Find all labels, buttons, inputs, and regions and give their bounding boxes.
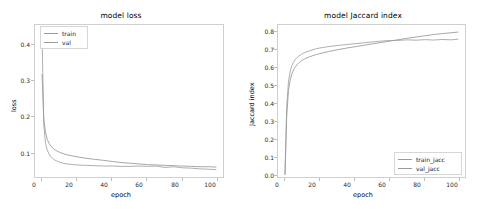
ytickmark-jacc-5 bbox=[274, 85, 277, 86]
legend-line-icon bbox=[44, 42, 58, 43]
ytickmark-loss-1 bbox=[31, 116, 34, 117]
legend-label-train-jacc: train_jacc bbox=[416, 156, 445, 163]
legend-label-val: val bbox=[62, 39, 71, 46]
xtick-jacc-4: 80 bbox=[410, 181, 424, 188]
xtickmark-loss-4 bbox=[182, 178, 183, 181]
ytick-jacc-2: 0.2 bbox=[250, 136, 274, 143]
panel-model-jaccard-index: model Jaccard index 0.0 0.1 0.2 0.3 0.4 … bbox=[242, 0, 484, 209]
legend-item-val-jacc: val_jacc bbox=[395, 164, 461, 173]
legend-loss: train val bbox=[40, 26, 88, 49]
panel-title: model loss bbox=[0, 11, 242, 20]
xaxis-label-jaccard: epoch bbox=[242, 191, 484, 199]
xtick-jacc-5: 100 bbox=[444, 181, 460, 188]
ytick-jacc-0: 0.0 bbox=[250, 172, 274, 179]
legend-label-val-jacc: val_jacc bbox=[416, 165, 440, 172]
ytickmark-jacc-8 bbox=[274, 31, 277, 32]
legend-item-val: val bbox=[41, 38, 87, 47]
xtick-loss-4: 80 bbox=[168, 181, 182, 188]
xtickmark-jacc-4 bbox=[424, 178, 425, 181]
panel-title: model Jaccard index bbox=[242, 11, 484, 20]
ytick-loss-3: 0.4 bbox=[10, 41, 30, 48]
yaxis-label-loss: loss bbox=[10, 99, 18, 112]
xtick-jacc-0: 0 bbox=[270, 181, 284, 188]
xtickmark-loss-1 bbox=[76, 178, 77, 181]
xtickmark-loss-0 bbox=[41, 178, 42, 181]
panel-model-loss: model loss 0.1 0.2 0.3 0.4 0 20 40 60 80… bbox=[0, 0, 242, 209]
ytickmark-loss-2 bbox=[31, 80, 34, 81]
ytick-loss-0: 0.1 bbox=[10, 150, 30, 157]
ytick-jacc-1: 0.1 bbox=[250, 154, 274, 161]
series-train bbox=[42, 74, 216, 167]
xtickmark-jacc-1 bbox=[319, 178, 320, 181]
ytickmark-loss-0 bbox=[31, 153, 34, 154]
legend-label-train: train bbox=[62, 30, 76, 37]
figure-canvas: model loss 0.1 0.2 0.3 0.4 0 20 40 60 80… bbox=[0, 0, 484, 209]
ytickmark-jacc-2 bbox=[274, 139, 277, 140]
xtickmark-loss-3 bbox=[146, 178, 147, 181]
ytickmark-jacc-3 bbox=[274, 121, 277, 122]
xtick-jacc-2: 40 bbox=[340, 181, 354, 188]
legend-line-icon bbox=[398, 159, 412, 160]
legend-item-train: train bbox=[41, 29, 87, 38]
xtick-loss-3: 60 bbox=[132, 181, 146, 188]
ytickmark-jacc-0 bbox=[274, 175, 277, 176]
xtickmark-jacc-0 bbox=[284, 178, 285, 181]
xtick-jacc-3: 60 bbox=[375, 181, 389, 188]
ytick-jacc-7: 0.7 bbox=[250, 46, 274, 53]
ytick-jacc-6: 0.6 bbox=[250, 64, 274, 71]
xtick-loss-1: 20 bbox=[62, 181, 76, 188]
yaxis-label-jaccard: Jaccard index bbox=[248, 82, 256, 126]
xtickmark-jacc-3 bbox=[389, 178, 390, 181]
xtick-loss-5: 100 bbox=[202, 181, 218, 188]
xtickmark-jacc-2 bbox=[354, 178, 355, 181]
xtick-loss-2: 40 bbox=[97, 181, 111, 188]
legend-jaccard: train_jacc val_jacc bbox=[394, 152, 462, 175]
xtick-loss-0: 0 bbox=[27, 181, 41, 188]
ytickmark-loss-3 bbox=[31, 44, 34, 45]
ytickmark-jacc-7 bbox=[274, 49, 277, 50]
xtickmark-loss-5 bbox=[217, 178, 218, 181]
xaxis-label-loss: epoch bbox=[0, 191, 242, 199]
ytick-loss-1: 0.2 bbox=[10, 113, 30, 120]
ytick-loss-2: 0.3 bbox=[10, 77, 30, 84]
ytickmark-jacc-6 bbox=[274, 67, 277, 68]
series-val bbox=[42, 33, 216, 170]
legend-line-icon bbox=[44, 33, 58, 34]
legend-line-icon bbox=[398, 168, 412, 169]
ytick-jacc-8: 0.8 bbox=[250, 28, 274, 35]
legend-item-train-jacc: train_jacc bbox=[395, 155, 461, 164]
xtickmark-loss-2 bbox=[111, 178, 112, 181]
ytickmark-jacc-4 bbox=[274, 103, 277, 104]
ytickmark-jacc-1 bbox=[274, 157, 277, 158]
xtick-jacc-1: 20 bbox=[305, 181, 319, 188]
xtickmark-jacc-5 bbox=[459, 178, 460, 181]
